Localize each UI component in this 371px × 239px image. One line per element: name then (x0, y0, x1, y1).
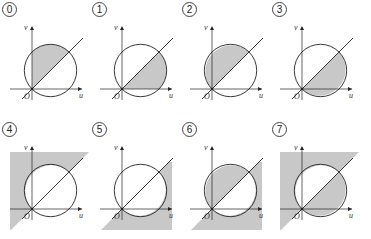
origin-point (31, 88, 34, 91)
v-axis-arrow-icon (30, 146, 34, 150)
graph-svg: v u O (270, 120, 360, 235)
svg-text:v: v (24, 23, 28, 32)
graph-panel-6: 6 v u O (180, 120, 270, 235)
origin-point (121, 208, 124, 211)
origin-point (211, 88, 214, 91)
svg-text:O: O (24, 92, 30, 101)
svg-text:O: O (294, 212, 300, 221)
svg-text:u: u (169, 211, 173, 220)
svg-text:v: v (114, 23, 118, 32)
svg-text:u: u (259, 211, 263, 220)
origin-point (301, 208, 304, 211)
graph-panel-1: 1 v u O (90, 0, 180, 115)
svg-text:O: O (24, 212, 30, 221)
svg-text:O: O (114, 212, 120, 221)
svg-text:v: v (204, 23, 208, 32)
svg-text:u: u (79, 211, 83, 220)
origin-point (31, 208, 34, 211)
origin-point (301, 88, 304, 91)
origin-point (211, 208, 214, 211)
v-axis-arrow-icon (210, 26, 214, 30)
svg-text:v: v (24, 143, 28, 152)
graph-panel-5: 5 v u O (90, 120, 180, 235)
graph-svg: v u O (0, 120, 90, 235)
svg-text:O: O (294, 92, 300, 101)
graph-panel-4: 4 v u O (0, 120, 90, 235)
svg-text:O: O (204, 212, 210, 221)
svg-text:O: O (114, 92, 120, 101)
origin-point (121, 88, 124, 91)
v-axis-arrow-icon (120, 26, 124, 30)
graph-svg: v u O (180, 0, 270, 115)
svg-text:v: v (294, 143, 298, 152)
graph-panel-2: 2 v u O (180, 0, 270, 115)
svg-text:u: u (349, 211, 353, 220)
svg-text:u: u (259, 91, 263, 100)
graph-svg: v u O (180, 120, 270, 235)
v-axis-arrow-icon (300, 146, 304, 150)
graph-panel-7: 7 v u O (270, 120, 360, 235)
graph-svg: v u O (0, 0, 90, 115)
svg-text:v: v (294, 23, 298, 32)
graph-panel-0: 0 v u O (0, 0, 90, 115)
graph-panel-3: 3 v u O (270, 0, 360, 115)
v-axis-arrow-icon (120, 146, 124, 150)
v-axis-arrow-icon (300, 26, 304, 30)
svg-text:O: O (204, 92, 210, 101)
svg-text:v: v (204, 143, 208, 152)
svg-text:u: u (349, 91, 353, 100)
svg-text:u: u (169, 91, 173, 100)
svg-text:u: u (79, 91, 83, 100)
v-axis-arrow-icon (30, 26, 34, 30)
svg-text:v: v (114, 143, 118, 152)
v-axis-arrow-icon (210, 146, 214, 150)
graph-svg: v u O (90, 0, 180, 115)
graph-svg: v u O (270, 0, 360, 115)
graph-svg: v u O (90, 120, 180, 235)
